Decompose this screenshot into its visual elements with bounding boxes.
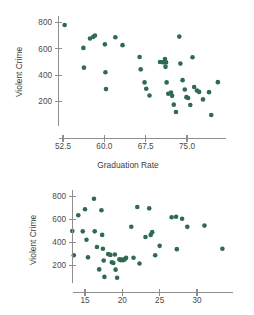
data-point	[92, 196, 97, 201]
data-point	[197, 90, 202, 95]
data-point	[111, 261, 116, 266]
y-tick-label: 600	[52, 215, 66, 224]
data-point	[177, 34, 182, 39]
data-point	[153, 253, 158, 258]
data-point	[84, 237, 89, 242]
data-point	[157, 244, 162, 249]
data-point	[120, 43, 125, 48]
data-point	[135, 205, 140, 210]
data-point	[186, 96, 191, 101]
data-point	[164, 80, 169, 85]
data-point	[101, 246, 106, 251]
data-point	[124, 256, 129, 261]
data-point	[147, 93, 152, 98]
y-tick-label: 200	[52, 261, 66, 270]
data-point	[100, 233, 105, 238]
data-point	[113, 35, 118, 40]
data-point	[62, 23, 67, 28]
data-point	[129, 224, 134, 229]
data-point	[180, 78, 185, 83]
data-point	[175, 247, 180, 252]
data-point	[209, 113, 214, 118]
data-point	[113, 252, 118, 257]
data-point	[102, 275, 107, 280]
y-tick-label: 400	[38, 71, 52, 80]
data-point	[81, 46, 86, 51]
data-point	[93, 33, 98, 38]
data-point	[171, 102, 176, 107]
chart-top-plot-area	[62, 23, 220, 118]
data-point	[201, 97, 206, 102]
data-point	[147, 206, 152, 211]
data-point	[178, 61, 183, 66]
data-point	[174, 214, 179, 219]
y-tick-label: 600	[38, 45, 52, 54]
data-point	[108, 253, 113, 258]
y-tick-label: 800	[52, 192, 66, 201]
x-tick-label: 52.5	[55, 142, 71, 151]
x-axis-ticks-top: 52.560.067.575.0	[55, 135, 195, 151]
data-point	[82, 65, 87, 70]
data-point	[188, 103, 193, 108]
data-point	[183, 87, 188, 92]
scatter-plot-figure: 200400600800 52.560.067.575.0 Violent Cr…	[0, 0, 254, 315]
data-point	[169, 215, 174, 220]
x-tick-label: 75.0	[179, 142, 195, 151]
data-point	[185, 225, 190, 230]
chart-bottom-plot-area	[70, 196, 225, 280]
data-point	[144, 86, 149, 91]
data-point	[138, 67, 143, 72]
data-point	[131, 255, 136, 260]
y-tick-label: 800	[38, 18, 52, 27]
chart-bottom: 200400600800 15202530 Violent Crime	[28, 190, 233, 305]
data-point-group	[62, 23, 220, 118]
data-point	[113, 267, 118, 272]
data-point	[92, 229, 97, 234]
data-point	[115, 275, 120, 280]
data-point	[180, 216, 185, 221]
chart-top: 200400600800 52.560.067.575.0 Violent Cr…	[14, 16, 226, 170]
data-point	[207, 90, 212, 95]
data-point	[103, 42, 108, 47]
data-point	[83, 207, 88, 212]
x-axis-title-top: Graduation Rate	[97, 160, 159, 170]
data-point	[97, 267, 102, 272]
y-axis-title-bottom: Violent Crime	[28, 215, 38, 265]
data-point	[142, 80, 147, 85]
data-point	[143, 235, 148, 240]
data-point	[174, 110, 179, 115]
x-tick-label: 60.0	[96, 142, 112, 151]
x-axis-ticks-bottom: 15202530	[80, 289, 202, 305]
x-tick-label: 20	[118, 296, 128, 305]
y-tick-label: 400	[52, 238, 66, 247]
data-point	[150, 230, 155, 235]
data-point	[103, 70, 108, 75]
x-tick-label: 30	[192, 296, 202, 305]
data-point	[137, 261, 142, 266]
x-tick-label: 25	[155, 296, 165, 305]
data-point	[76, 213, 81, 218]
data-point	[220, 246, 225, 251]
data-point	[163, 65, 168, 70]
data-point	[80, 229, 85, 234]
data-point	[163, 57, 168, 62]
data-point	[86, 255, 91, 260]
data-point	[170, 94, 175, 99]
figure-canvas: 200400600800 52.560.067.575.0 Violent Cr…	[0, 0, 254, 315]
x-tick-label: 67.5	[138, 142, 154, 151]
data-point-group	[70, 196, 225, 280]
data-point	[190, 55, 195, 60]
x-tick-label: 15	[80, 296, 90, 305]
data-point	[101, 258, 106, 263]
data-point	[216, 80, 221, 85]
data-point	[99, 208, 104, 213]
data-point	[137, 55, 142, 60]
data-point	[95, 245, 100, 250]
y-axis-title-top: Violent Crime	[14, 47, 24, 97]
data-point	[202, 223, 207, 228]
data-point	[104, 87, 109, 92]
y-tick-label: 200	[38, 97, 52, 106]
